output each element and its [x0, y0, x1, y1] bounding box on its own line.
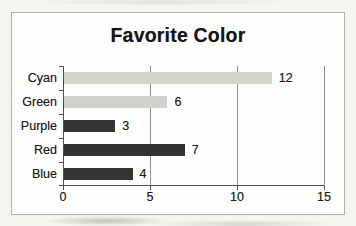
- y-axis-line: [63, 66, 64, 186]
- x-axis-line: [63, 185, 324, 186]
- x-axis-tick: [237, 186, 238, 190]
- x-axis-tick: [63, 186, 64, 190]
- value-label: 7: [192, 143, 199, 157]
- y-axis-tick: [59, 66, 63, 67]
- y-axis-tick: [59, 162, 63, 163]
- bar-row: 12: [63, 66, 324, 90]
- category-label: Cyan: [12, 66, 57, 90]
- bar-row: 3: [63, 114, 324, 138]
- bar-purple: [63, 120, 115, 132]
- bar-row: 4: [63, 162, 324, 186]
- x-axis-tick: [150, 186, 151, 190]
- x-tick-label: 15: [317, 191, 331, 204]
- plot-area: 126374: [63, 66, 324, 186]
- category-label: Green: [12, 90, 57, 114]
- gridline: [324, 66, 325, 186]
- bar-cyan: [63, 72, 272, 84]
- bar-green: [63, 96, 167, 108]
- bar-rows: 126374: [63, 66, 324, 186]
- chart-frame: Favorite Color 126374 CyanGreenPurpleRed…: [11, 12, 345, 215]
- y-axis-tick: [59, 114, 63, 115]
- bar-row: 6: [63, 90, 324, 114]
- scanned-page: Favorite Color 126374 CyanGreenPurpleRed…: [0, 0, 356, 226]
- bar-row: 7: [63, 138, 324, 162]
- value-label: 6: [174, 95, 181, 109]
- value-label: 3: [122, 119, 129, 133]
- value-label: 4: [140, 167, 147, 181]
- x-axis-tick: [324, 186, 325, 190]
- bar-red: [63, 144, 185, 156]
- category-label: Red: [12, 138, 57, 162]
- value-axis-labels: 051015: [63, 191, 324, 206]
- category-axis-labels: CyanGreenPurpleRedBlue: [12, 66, 57, 186]
- x-tick-label: 5: [147, 191, 154, 204]
- bar-blue: [63, 168, 133, 180]
- x-tick-label: 10: [230, 191, 244, 204]
- category-label: Blue: [12, 162, 57, 186]
- y-axis-tick: [59, 138, 63, 139]
- x-tick-label: 0: [60, 191, 67, 204]
- value-label: 12: [279, 71, 293, 85]
- chart-title: Favorite Color: [12, 24, 344, 47]
- category-label: Purple: [12, 114, 57, 138]
- y-axis-tick: [59, 90, 63, 91]
